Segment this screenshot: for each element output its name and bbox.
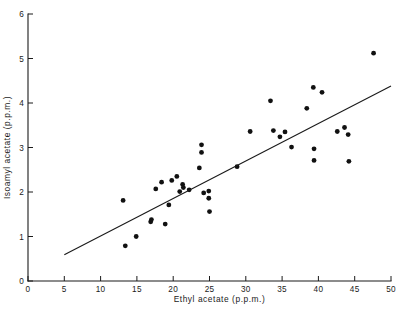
- data-point: [201, 190, 206, 195]
- y-axis-title: Isoamyl acetate (p.p.m.): [2, 96, 12, 199]
- data-point: [206, 196, 211, 201]
- data-point: [174, 174, 179, 179]
- data-point: [248, 129, 253, 134]
- x-tick-label: 40: [314, 285, 324, 294]
- x-tick-label: 50: [386, 285, 396, 294]
- x-tick-label: 30: [241, 285, 251, 294]
- data-point: [342, 125, 347, 130]
- data-point: [346, 132, 351, 137]
- y-tick-label: 4: [19, 99, 24, 108]
- scatter-plot-canvas: 05101520253035404550 0123456 Ethyl aceta…: [0, 0, 409, 312]
- data-point: [163, 222, 168, 227]
- data-point: [121, 198, 126, 203]
- data-point: [199, 142, 204, 147]
- data-point: [159, 180, 164, 185]
- data-point: [181, 185, 186, 190]
- data-point: [166, 203, 171, 208]
- data-point: [271, 128, 276, 133]
- y-tick-label: 2: [19, 188, 24, 197]
- y-tick-label: 3: [19, 144, 24, 153]
- x-tick-label: 20: [168, 285, 178, 294]
- data-point: [268, 98, 273, 103]
- x-tick-label: 45: [350, 285, 360, 294]
- x-tick-label: 10: [96, 285, 106, 294]
- regression-line: [64, 86, 391, 255]
- x-tick-label: 35: [277, 285, 287, 294]
- x-axis-ticks: 05101520253035404550: [26, 276, 396, 294]
- plot-axes: [28, 14, 391, 281]
- scatter-points: [121, 51, 376, 248]
- x-tick-label: 15: [132, 285, 142, 294]
- y-tick-label: 1: [19, 233, 24, 242]
- data-point: [312, 158, 317, 163]
- data-point: [278, 134, 283, 139]
- scatter-plot-figure: 05101520253035404550 0123456 Ethyl aceta…: [0, 0, 409, 312]
- data-point: [311, 85, 316, 90]
- data-point: [320, 90, 325, 95]
- x-tick-label: 25: [205, 285, 215, 294]
- data-point: [346, 159, 351, 164]
- data-point: [199, 150, 204, 155]
- data-point: [304, 106, 309, 111]
- data-point: [283, 130, 288, 135]
- x-tick-label: 5: [62, 285, 67, 294]
- x-tick-label: 0: [26, 285, 31, 294]
- y-axis-ticks: 0123456: [19, 10, 33, 286]
- x-axis-title: Ethyl acetate (p.p.m.): [174, 294, 266, 304]
- data-point: [207, 209, 212, 214]
- data-point: [153, 186, 158, 191]
- data-point: [169, 178, 174, 183]
- y-tick-label: 5: [19, 55, 24, 64]
- data-point: [197, 166, 202, 171]
- y-tick-label: 6: [19, 10, 24, 19]
- data-point: [177, 189, 182, 194]
- data-point: [149, 217, 154, 222]
- data-point: [123, 243, 128, 248]
- data-point: [371, 51, 376, 56]
- y-tick-label: 0: [19, 277, 24, 286]
- data-point: [206, 189, 211, 194]
- data-point: [312, 146, 317, 151]
- data-point: [134, 234, 139, 239]
- data-point: [335, 129, 340, 134]
- data-point: [289, 145, 294, 150]
